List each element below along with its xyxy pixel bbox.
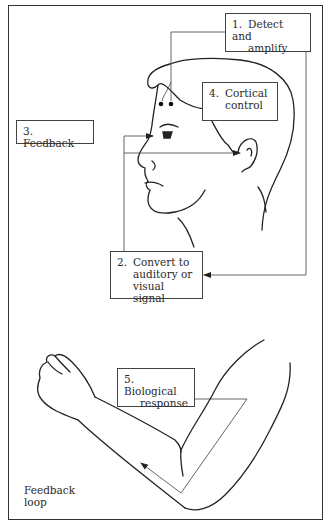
step-label: control [209,99,271,111]
feedback-loop-label: Feedback loop [24,484,75,508]
step-label: amplify [232,42,304,54]
step-label: response [124,397,188,409]
step-label: auditory or [117,268,196,280]
electrode-dot [159,102,164,107]
step-label: visual signal [117,280,196,304]
step-3-feedback-box: 3.Feedback [16,120,94,144]
electrode-dot [169,102,174,107]
step-label: Convert to [133,256,189,268]
step-5-biological-response-box: 5.Biological response [117,368,195,407]
step-label: Biological [124,385,177,397]
step-4-cortical-control-box: 4.Cortical control [202,82,278,121]
step-number: 5. [124,373,140,385]
step-1-detect-amplify-box: 1.Detect and amplify [225,13,311,52]
step-number: 2. [117,256,133,268]
step-2-convert-signal-box: 2.Convert to auditory or visual signal [110,251,203,299]
loop-label-line: Feedback [24,484,75,496]
arm-illustration [38,340,291,510]
loop-label-line: loop [24,496,75,508]
step-number: 4. [209,87,225,99]
step-label: Feedback [23,137,74,149]
step-number: 1. [232,18,248,30]
step-label: Cortical [225,87,267,99]
step-number: 3. [23,125,39,137]
